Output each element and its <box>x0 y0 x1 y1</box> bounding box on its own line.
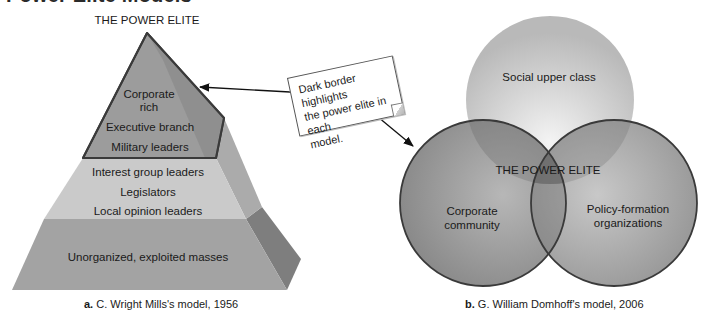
mills-heading: THE POWER ELITE <box>95 14 200 26</box>
diagram-canvas: THE POWER ELITE Corporate rich Executive… <box>0 0 701 313</box>
domhoff-venn: Social upper class Corporate community P… <box>400 16 697 286</box>
caption-domhoff: b. G. William Domhoff's model, 2006 <box>465 298 644 310</box>
tier-label: Unorganized, exploited masses <box>68 251 229 263</box>
page-fold-icon <box>391 102 405 116</box>
mills-pyramid: THE POWER ELITE Corporate rich Executive… <box>12 14 301 290</box>
tier-label: Corporate <box>123 88 174 100</box>
circle-label: Corporate <box>446 205 497 217</box>
caption-prefix: b. <box>465 298 475 310</box>
caption-text: G. William Domhoff's model, 2006 <box>478 298 644 310</box>
caption-text: C. Wright Mills's model, 1956 <box>96 298 238 310</box>
tier-label: rich <box>140 101 159 113</box>
circle-label: organizations <box>594 217 663 229</box>
tier-label: Military leaders <box>111 141 189 153</box>
tier-label: Local opinion leaders <box>94 205 203 217</box>
tier-label: Legislators <box>120 186 176 198</box>
arrow-to-pyramid <box>200 87 290 92</box>
caption-prefix: a. <box>84 298 93 310</box>
intersection-label: THE POWER ELITE <box>496 164 601 176</box>
tier-label: Executive branch <box>106 121 194 133</box>
circle-label: Social upper class <box>502 71 596 83</box>
tier-label: Interest group leaders <box>92 166 204 178</box>
caption-mills: a. C. Wright Mills's model, 1956 <box>84 298 238 310</box>
circle-label: Policy-formation <box>587 203 669 215</box>
circle-label: community <box>444 219 500 231</box>
